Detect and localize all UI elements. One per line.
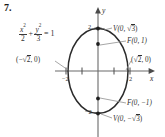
label-covertex-left-radicand: 2	[27, 56, 31, 64]
label-vertex-top-prefix: V(0,	[113, 25, 127, 33]
label-focus-bottom-text: F(0, −1)	[127, 99, 152, 107]
label-vertex-bottom: V(0, −√3)	[113, 114, 142, 123]
point-focus-bottom	[96, 97, 100, 101]
label-vertex-top: V(0, √3)	[113, 24, 137, 33]
label-vertex-bottom-prefix: V(0, −	[113, 115, 132, 123]
label-vertex-bottom-radicand: 3	[136, 115, 140, 123]
y-axis-label: y	[102, 6, 105, 15]
leader-vertex-bottom	[101, 114, 112, 118]
point-focus-top	[96, 42, 100, 46]
label-covertex-right: (√2, 0)	[131, 55, 151, 64]
label-focus-bottom: F(0, −1)	[127, 99, 152, 107]
tick-label-y-neg2: −2	[85, 108, 92, 115]
sqrt-icon: √3	[132, 114, 140, 123]
tick-label-x-neg2: −2	[62, 75, 69, 82]
tick-label-y-pos2: 2	[88, 23, 91, 30]
label-focus-top: F(0, 1)	[127, 37, 147, 45]
label-covertex-left: (−√2, 0)	[16, 55, 40, 64]
label-covertex-left-suffix: , 0)	[30, 56, 40, 64]
label-covertex-right-radicand: 2	[138, 56, 142, 64]
leader-covertex-left	[55, 61, 68, 70]
label-vertex-top-radicand: 3	[131, 25, 135, 33]
leader-focus-bottom	[100, 98, 126, 103]
sqrt-icon: √2	[133, 55, 141, 64]
label-vertex-bottom-suffix: )	[140, 115, 142, 123]
sqrt-icon: √3	[127, 24, 135, 33]
ellipse-figure: 7. x2 2 + y2 3 = 1	[0, 0, 165, 137]
label-vertex-top-suffix: )	[135, 25, 137, 33]
sqrt-icon: √2	[22, 55, 30, 64]
point-vertex-top	[96, 27, 100, 31]
y-axis-arrow-icon	[95, 7, 101, 14]
label-focus-top-text: F(0, 1)	[127, 37, 147, 45]
point-vertex-bottom	[96, 112, 100, 116]
label-covertex-right-suffix: , 0)	[141, 56, 151, 64]
tick-label-x-pos2: 2	[129, 75, 132, 82]
x-axis-label: x	[150, 74, 153, 83]
